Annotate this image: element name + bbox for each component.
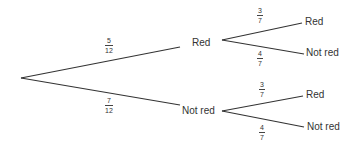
prob-notred-red: 3 7 — [259, 81, 265, 98]
denominator: 12 — [105, 107, 113, 114]
prob-red-red: 3 7 — [257, 7, 263, 24]
fraction-bar — [257, 15, 263, 16]
numerator: 7 — [107, 97, 111, 104]
denominator: 7 — [258, 17, 262, 24]
denominator: 7 — [260, 91, 264, 98]
numerator: 3 — [258, 7, 262, 14]
numerator: 5 — [107, 37, 111, 44]
leaf-notred-not-red: Not red — [307, 122, 340, 132]
node-red: Red — [192, 38, 210, 48]
prob-red-not-red: 4 7 — [257, 50, 263, 67]
branch-notred-red — [222, 96, 303, 111]
fraction-bar — [105, 45, 113, 46]
node-not-red: Not red — [182, 106, 215, 116]
prob-notred-not-red: 4 7 — [259, 124, 265, 141]
leaf-red-red: Red — [305, 17, 323, 27]
numerator: 4 — [258, 50, 262, 57]
denominator: 7 — [258, 60, 262, 67]
branch-red-not-red — [222, 40, 304, 54]
branch-red-red — [222, 23, 302, 40]
leaf-red-not-red: Not red — [306, 48, 339, 58]
fraction-bar — [257, 58, 263, 59]
fraction-bar — [105, 105, 113, 106]
denominator: 7 — [260, 134, 264, 141]
numerator: 4 — [260, 124, 264, 131]
fraction-bar — [259, 132, 265, 133]
branch-root-not-red — [21, 78, 180, 105]
prob-root-red: 5 12 — [105, 37, 113, 54]
fraction-bar — [259, 89, 265, 90]
denominator: 12 — [105, 47, 113, 54]
leaf-notred-red: Red — [306, 90, 324, 100]
prob-root-not-red: 7 12 — [105, 97, 113, 114]
numerator: 3 — [260, 81, 264, 88]
branch-root-red — [21, 47, 180, 78]
